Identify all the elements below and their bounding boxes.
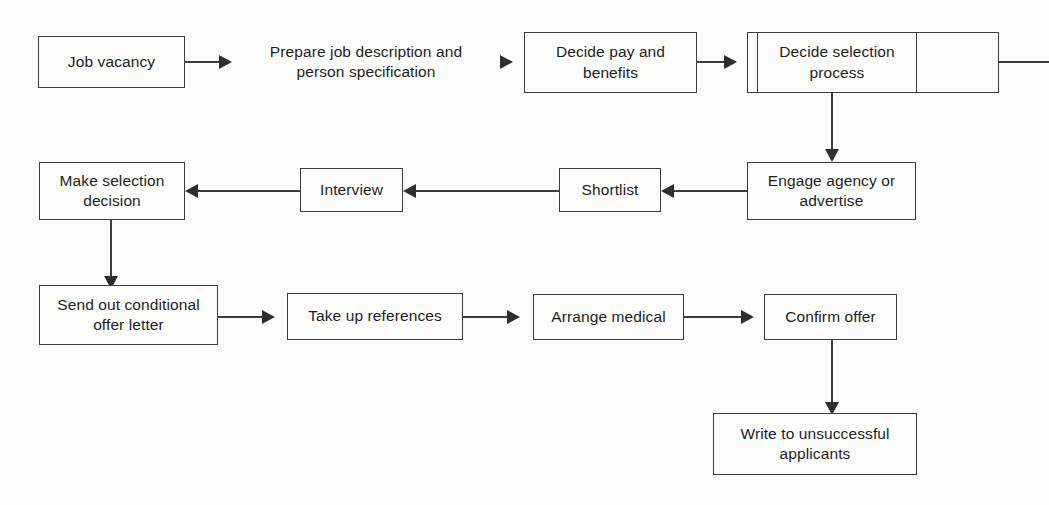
edge-make-selection-to-send-offer-line — [110, 220, 112, 278]
edge-references-to-arrange-medical-arrowhead — [507, 310, 520, 324]
node-make-selection-decision: Make selection decision — [39, 162, 185, 220]
node-send-out-conditional-offer-letter-label: Send out conditional offer letter — [45, 295, 212, 336]
edge-shortlist-to-interview-arrowhead — [403, 184, 416, 198]
edge-interview-to-make-selection-arrowhead — [185, 184, 198, 198]
node-job-vacancy: Job vacancy — [38, 36, 185, 88]
edge-prepare-to-decide-pay-arrowhead — [500, 55, 513, 69]
edge-engage-agency-to-shortlist-line — [674, 190, 747, 192]
node-arrange-medical-label: Arrange medical — [551, 307, 665, 327]
node-engage-agency-or-advertise: Engage agency or advertise — [747, 162, 916, 220]
edge-decide-pay-to-decide-selection-line — [697, 61, 724, 63]
node-interview: Interview — [300, 168, 403, 212]
node-decide-selection-process-label: Decide selection process — [763, 42, 911, 83]
node-prepare-job-description-label: Prepare job description and person speci… — [251, 42, 481, 83]
node-decide-pay-and-benefits-label: Decide pay and benefits — [530, 42, 691, 83]
node-blank-cell — [916, 32, 999, 93]
edge-decide-pay-to-decide-selection-arrowhead — [724, 55, 737, 69]
node-confirm-offer: Confirm offer — [764, 294, 897, 340]
edge-confirm-offer-to-write-unsuccessful-line — [831, 340, 833, 404]
node-shortlist-label: Shortlist — [582, 180, 639, 200]
node-send-out-conditional-offer-letter: Send out conditional offer letter — [39, 285, 218, 345]
edge-arrange-medical-to-confirm-offer-line — [684, 316, 741, 318]
node-write-to-unsuccessful-applicants-label: Write to unsuccessful applicants — [719, 424, 911, 465]
node-engage-agency-or-advertise-label: Engage agency or advertise — [753, 171, 910, 212]
edge-interview-to-make-selection-line — [198, 190, 300, 192]
edge-decide-selection-to-engage-agency-line — [831, 93, 833, 149]
node-shortlist: Shortlist — [559, 168, 661, 212]
edge-arrange-medical-to-confirm-offer-arrowhead — [741, 310, 754, 324]
edge-engage-agency-to-shortlist-arrowhead — [661, 184, 674, 198]
edge-job-vacancy-to-prepare-line — [185, 61, 219, 63]
edge-send-offer-to-references-arrowhead — [262, 310, 275, 324]
node-interview-label: Interview — [320, 180, 383, 200]
node-make-selection-decision-label: Make selection decision — [45, 171, 179, 212]
node-arrange-medical: Arrange medical — [533, 294, 684, 340]
edge-shortlist-to-interview-line — [416, 190, 559, 192]
edge-job-vacancy-to-prepare-arrowhead — [219, 55, 232, 69]
node-decide-selection-process: Decide selection process — [757, 32, 917, 93]
edge-send-offer-to-references-line — [218, 316, 262, 318]
edge-decide-selection-to-engage-agency-arrowhead — [825, 149, 839, 162]
node-prepare-job-description: Prepare job description and person speci… — [246, 32, 486, 92]
node-write-to-unsuccessful-applicants: Write to unsuccessful applicants — [713, 413, 917, 475]
edge-references-to-arrange-medical-line — [463, 316, 507, 318]
node-job-vacancy-label: Job vacancy — [68, 52, 155, 72]
node-take-up-references: Take up references — [287, 293, 463, 340]
node-decide-pay-and-benefits: Decide pay and benefits — [524, 32, 697, 93]
node-take-up-references-label: Take up references — [308, 306, 442, 326]
edge-trailing-edge-line — [999, 61, 1049, 63]
flowchart-canvas: Job vacancy Prepare job description and … — [0, 0, 1049, 505]
node-confirm-offer-label: Confirm offer — [785, 307, 876, 327]
